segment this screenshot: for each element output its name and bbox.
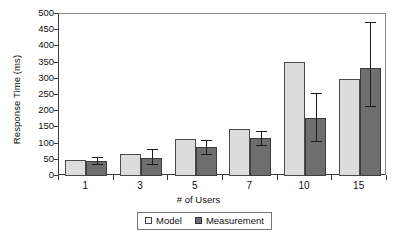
x-axis-tick-label: 5 xyxy=(175,180,215,191)
bar-model xyxy=(175,139,196,176)
plot-area xyxy=(58,13,386,175)
x-axis-title: # of Users xyxy=(0,194,397,205)
bar-model xyxy=(339,79,360,176)
y-axis-tick-label: 400 xyxy=(24,40,54,50)
y-axis-tick-label: 300 xyxy=(24,73,54,83)
x-axis-tick-label: 3 xyxy=(120,180,160,191)
error-bar-line xyxy=(152,149,153,165)
x-axis-tick-mark xyxy=(113,175,114,180)
error-bar-cap-top xyxy=(147,149,158,150)
x-axis-tick-label: 10 xyxy=(284,180,324,191)
y-axis-tick-label: 500 xyxy=(24,8,54,18)
bar-model xyxy=(229,129,250,176)
x-axis-tick-mark xyxy=(58,175,59,180)
error-bar-cap-bottom xyxy=(147,164,158,165)
x-axis-tick-label: 7 xyxy=(229,180,269,191)
chart-legend: Model Measurement xyxy=(137,212,272,230)
legend-item-model: Model xyxy=(145,215,182,226)
y-axis-tick-label: 150 xyxy=(24,121,54,131)
x-axis-tick-mark xyxy=(222,175,223,180)
error-bar-line xyxy=(206,140,207,154)
error-bar-line xyxy=(261,131,262,145)
x-axis-tick-mark xyxy=(167,175,168,180)
error-bar-cap-bottom xyxy=(311,141,322,142)
error-bar-cap-top xyxy=(92,157,103,158)
error-bar-line xyxy=(316,93,317,140)
x-axis-tick-mark xyxy=(277,175,278,180)
legend-item-measurement: Measurement xyxy=(195,215,264,226)
y-axis-tick-label: 250 xyxy=(24,89,54,99)
error-bar-cap-bottom xyxy=(256,145,267,146)
legend-swatch-measurement-icon xyxy=(195,217,202,224)
error-bar-line xyxy=(97,157,98,164)
y-axis-tick-label: 100 xyxy=(24,138,54,148)
x-axis-tick-mark xyxy=(386,175,387,180)
legend-swatch-model-icon xyxy=(145,217,152,224)
bar-model xyxy=(120,154,141,176)
bar-model xyxy=(284,62,305,176)
error-bar-cap-top xyxy=(365,22,376,23)
x-axis-tick-mark xyxy=(331,175,332,180)
y-axis-tick-label: 450 xyxy=(24,24,54,34)
error-bar-cap-bottom xyxy=(201,154,212,155)
y-axis-tick-label: 350 xyxy=(24,57,54,67)
error-bar-cap-bottom xyxy=(92,164,103,165)
bar-model xyxy=(65,160,86,176)
error-bar-cap-top xyxy=(256,131,267,132)
x-axis-tick-label: 15 xyxy=(339,180,379,191)
error-bar-cap-bottom xyxy=(365,106,376,107)
y-axis-tick-label: 0 xyxy=(24,170,54,180)
y-axis-tick-label: 200 xyxy=(24,105,54,115)
response-time-bar-chart: Response Time (ms) 050100150200250300350… xyxy=(0,0,397,239)
legend-label-measurement: Measurement xyxy=(206,215,264,226)
x-axis-tick-label: 1 xyxy=(65,180,105,191)
error-bar-line xyxy=(370,22,371,106)
error-bar-cap-top xyxy=(311,93,322,94)
legend-label-model: Model xyxy=(156,215,182,226)
error-bar-cap-top xyxy=(201,140,212,141)
y-axis-title: Response Time (ms) xyxy=(11,30,22,170)
y-axis-tick-label: 50 xyxy=(24,154,54,164)
